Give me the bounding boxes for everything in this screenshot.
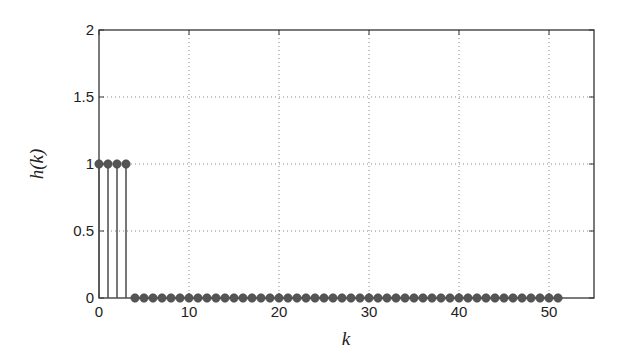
stem-marker: [311, 294, 319, 302]
y-tick-label: 2: [86, 21, 94, 38]
x-tick-labels: 01020304050: [95, 303, 558, 320]
stem-marker: [383, 294, 391, 302]
x-tick-label: 30: [361, 303, 378, 320]
stem-marker: [329, 294, 337, 302]
stem-marker: [518, 294, 526, 302]
stem-marker: [527, 294, 535, 302]
stem-marker: [419, 294, 427, 302]
stem-marker: [302, 294, 310, 302]
stem-marker: [455, 294, 463, 302]
x-axis-label: k: [342, 328, 351, 349]
stem-marker: [464, 294, 472, 302]
stem-marker: [275, 294, 283, 302]
y-tick-label: 0.5: [73, 222, 94, 239]
data-stems: [95, 160, 562, 302]
stem-marker: [500, 294, 508, 302]
stem-marker: [104, 160, 112, 168]
stem-marker: [473, 294, 481, 302]
x-tick-label: 0: [95, 303, 103, 320]
stem-marker: [113, 160, 121, 168]
y-axis-label: h(k): [26, 149, 48, 180]
stem-marker: [446, 294, 454, 302]
stem-marker: [230, 294, 238, 302]
stem-marker: [257, 294, 265, 302]
stem-marker: [491, 294, 499, 302]
stem-marker: [293, 294, 301, 302]
stem-marker: [212, 294, 220, 302]
stem-marker: [266, 294, 274, 302]
stem-marker: [95, 160, 103, 168]
x-tick-label: 10: [181, 303, 198, 320]
x-tick-label: 40: [451, 303, 468, 320]
stem-marker: [428, 294, 436, 302]
grid-lines: [99, 30, 594, 298]
y-tick-label: 1: [86, 155, 94, 172]
stem-marker: [536, 294, 544, 302]
stem-marker: [482, 294, 490, 302]
y-tick-labels: 00.511.52: [73, 21, 94, 306]
y-tick-label: 1.5: [73, 88, 94, 105]
stem-marker: [203, 294, 211, 302]
stem-marker: [347, 294, 355, 302]
stem-marker: [284, 294, 292, 302]
stem-marker: [131, 294, 139, 302]
stem-marker: [185, 294, 193, 302]
stem-marker: [410, 294, 418, 302]
stem-marker: [374, 294, 382, 302]
stem-marker: [365, 294, 373, 302]
stem-marker: [239, 294, 247, 302]
stem-marker: [158, 294, 166, 302]
stem-marker: [509, 294, 517, 302]
stem-marker: [545, 294, 553, 302]
stem-marker: [320, 294, 328, 302]
x-tick-label: 50: [541, 303, 558, 320]
x-tick-label: 20: [271, 303, 288, 320]
stem-marker: [122, 160, 130, 168]
stem-marker: [248, 294, 256, 302]
stem-marker: [554, 294, 562, 302]
stem-marker: [392, 294, 400, 302]
stem-marker: [176, 294, 184, 302]
stem-marker: [401, 294, 409, 302]
stem-marker: [194, 294, 202, 302]
stem-marker: [221, 294, 229, 302]
stem-marker: [140, 294, 148, 302]
stem-marker: [167, 294, 175, 302]
stem-chart: 01020304050 00.511.52 k h(k): [0, 0, 625, 364]
y-tick-label: 0: [86, 289, 94, 306]
stem-marker: [437, 294, 445, 302]
stem-marker: [356, 294, 364, 302]
stem-marker: [149, 294, 157, 302]
stem-marker: [338, 294, 346, 302]
